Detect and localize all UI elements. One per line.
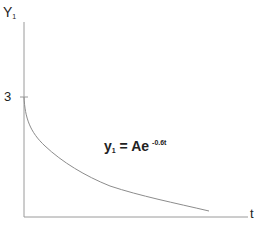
- y-tick-label-3: 3: [4, 89, 11, 104]
- equation-exponent: -0.6t: [152, 139, 166, 146]
- y-axis-label-sub: 1: [12, 13, 16, 20]
- equation-annotation: y1 = Ae-0.6t: [104, 138, 166, 154]
- y-axis-label-main: Y: [3, 4, 12, 20]
- x-axis-label: t: [250, 206, 254, 221]
- decay-curve: [24, 97, 209, 211]
- equation-rhs: = Ae: [116, 138, 149, 154]
- equation-lhs: y: [104, 138, 112, 154]
- y-axis-label: Y1: [3, 4, 16, 20]
- chart-canvas: [0, 0, 263, 225]
